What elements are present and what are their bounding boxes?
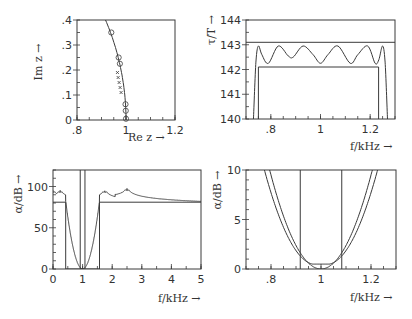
x-tick-label: .8 [72, 124, 83, 137]
x-tick-label: 5 [198, 273, 205, 286]
panel-group-delay: .811.2140141142143144 [220, 14, 395, 136]
x-tick-label: .8 [266, 123, 277, 136]
y-tick-label: 0 [41, 263, 48, 276]
p3-xlabel: f/kHz → [158, 292, 201, 305]
attenuation-curve [53, 189, 201, 269]
y-tick-label: 10 [227, 164, 241, 177]
x-tick-label: 3 [138, 273, 145, 286]
series-group-delay [253, 46, 387, 119]
y-tick-label: .4 [62, 14, 73, 27]
tolerance-scheme [53, 202, 201, 269]
series-lower-tolerance [258, 67, 378, 119]
y-tick-label: 100 [27, 181, 48, 194]
y-tick-label: .2 [62, 64, 73, 77]
y-tick-label: 0 [65, 114, 72, 127]
y-tick-label: 5 [234, 214, 241, 227]
x-tick-label: 1 [318, 273, 325, 286]
x-tick-label: 1 [317, 123, 324, 136]
panel-attenuation-passband: .811.20510 [227, 58, 396, 286]
x-tick-label: 1 [79, 273, 86, 286]
x-tick-label: 1.2 [361, 123, 379, 136]
y-tick-label: 142 [220, 64, 241, 77]
x-tick-label: 2 [109, 273, 116, 286]
pole-marker [119, 86, 122, 89]
y-tick-label: 143 [220, 39, 241, 52]
p1-ylabel: Im z → [32, 44, 45, 81]
p1-xlabel: Re z → [128, 131, 165, 144]
attenuation-curve [246, 58, 396, 269]
x-tick-label: 0 [50, 273, 57, 286]
x-tick-label: 4 [168, 273, 175, 286]
y-tick-label: 144 [220, 14, 241, 27]
p2-ylabel: τ/T → [205, 15, 218, 45]
y-tick-label: .1 [62, 89, 73, 102]
p4-xlabel: f/kHz → [350, 291, 393, 304]
pole-marker [120, 91, 123, 94]
y-tick-label: 0 [234, 263, 241, 276]
pole-marker [117, 76, 120, 79]
p4-ylabel: α/dB → [211, 171, 224, 210]
x-tick-label: 1.2 [362, 273, 380, 286]
plot-frame [53, 170, 201, 269]
plot-frame [246, 20, 395, 119]
y-tick-label: 141 [220, 88, 241, 101]
pole-marker [116, 71, 119, 74]
x-tick-label: .8 [266, 273, 277, 286]
y-tick-label: .3 [62, 39, 73, 52]
x-tick-label: 1.2 [166, 124, 184, 137]
panel-pole-zero: .811.20.1.2.3.4 [62, 14, 184, 137]
p2-xlabel: f/kHz → [350, 140, 393, 153]
p3-ylabel: α/dB → [12, 175, 25, 214]
y-tick-label: 50 [34, 222, 48, 235]
pole-marker [118, 81, 121, 84]
y-tick-label: 140 [220, 113, 241, 126]
figure: .811.20.1.2.3.4 .811.2140141142143144 01… [0, 0, 412, 319]
panel-attenuation-wide: 012345050100 [27, 170, 205, 286]
tolerance-bound-curve [246, 90, 396, 264]
